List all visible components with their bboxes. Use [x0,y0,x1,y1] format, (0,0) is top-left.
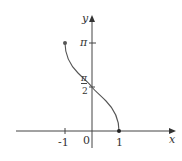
y-axis-arrow-icon [89,15,95,22]
x-tick-label-neg1: -1 [58,136,69,149]
x-axis-label: x [169,133,175,146]
x-tick-label-0: 0 [83,134,90,147]
endpoint-dot-left [63,41,67,45]
y-tick-label-pi: π [80,36,87,49]
y-tick-label-half-pi-den: 2 [82,86,88,96]
x-tick-label-1: 1 [116,136,123,149]
endpoint-dot-right [117,129,121,133]
y-tick-label-half-pi-num: π [81,73,87,84]
arccos-graph: y x π π 2 -1 0 1 [0,0,182,161]
plot-svg [0,0,182,161]
y-axis-label: y [82,12,88,25]
